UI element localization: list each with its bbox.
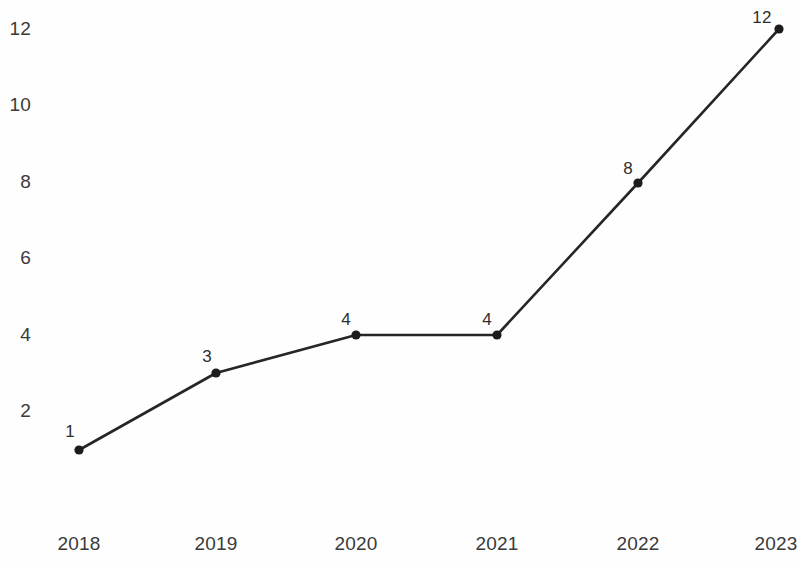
y-axis-tick-label: 4 (0, 324, 31, 346)
y-axis-tick-label: 6 (0, 247, 31, 269)
series-polyline (79, 29, 779, 450)
data-point-marker (74, 445, 83, 454)
y-axis-tick-label: 2 (0, 400, 31, 422)
y-axis-tick-label: 8 (0, 171, 31, 193)
data-point-value-label: 8 (623, 159, 633, 179)
x-axis-tick-label: 2019 (194, 533, 237, 555)
x-axis-tick-label: 2020 (334, 533, 377, 555)
data-point-marker (492, 330, 501, 339)
x-axis-tick-label: 2018 (57, 533, 100, 555)
data-point-markers (74, 24, 783, 454)
data-point-marker (633, 178, 642, 187)
data-point-value-label: 1 (65, 422, 75, 442)
x-axis-tick-label: 2023 (754, 533, 797, 555)
data-point-marker (211, 368, 220, 377)
data-point-value-label: 4 (482, 310, 492, 330)
data-point-value-label: 12 (752, 8, 771, 28)
data-point-value-label: 3 (202, 347, 212, 367)
x-axis-tick-label: 2021 (475, 533, 518, 555)
data-point-marker (774, 24, 783, 33)
y-axis-tick-label: 10 (0, 94, 31, 116)
x-axis-tick-label: 2022 (616, 533, 659, 555)
y-axis-tick-label: 12 (0, 18, 31, 40)
plot-area (0, 0, 801, 567)
line-chart: 12108642 201820192020202120222023 134481… (0, 0, 801, 567)
data-point-value-label: 4 (341, 310, 351, 330)
data-series-line (79, 29, 779, 450)
data-point-marker (351, 330, 360, 339)
